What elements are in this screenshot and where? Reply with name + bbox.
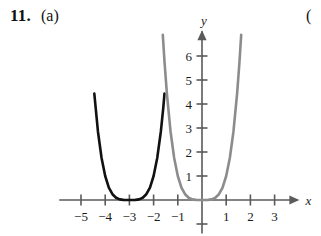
x-tick-label: −1 (171, 209, 185, 224)
y-tick-label: 1 (186, 169, 193, 184)
y-tick-label: 2 (186, 145, 193, 160)
graph-figure: −5−4−3−2−1123123456xy (0, 0, 321, 236)
y-axis-label: y (199, 13, 207, 28)
y-tick-label: 4 (186, 97, 193, 112)
x-tick-label: −3 (122, 209, 136, 224)
y-axis-arrowhead (197, 30, 206, 40)
x-tick-label: −2 (147, 209, 161, 224)
x-tick-label: 2 (247, 209, 254, 224)
x-tick-label: 1 (223, 209, 230, 224)
x-axis-label: x (304, 193, 311, 208)
y-tick-label: 3 (186, 121, 193, 136)
figure-page: 11. (a) ( −5−4−3−2−1123123456xy (0, 0, 321, 236)
x-tick-label: −4 (98, 209, 112, 224)
curves-group (94, 35, 241, 200)
curve-shifted-quartic (94, 94, 164, 200)
x-tick-label: 3 (271, 209, 278, 224)
y-tick-label: 5 (186, 73, 193, 88)
y-tick-label: 6 (186, 49, 193, 64)
x-tick-label: −5 (74, 209, 88, 224)
axes-group (59, 30, 299, 233)
axis-labels-group: −5−4−3−2−1123123456xy (74, 13, 311, 224)
x-axis-arrowhead (289, 195, 299, 204)
